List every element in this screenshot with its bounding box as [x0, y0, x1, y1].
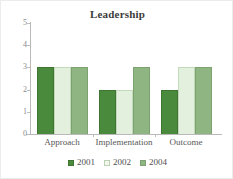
bar[interactable]	[116, 90, 133, 134]
y-axis-tick-mark	[27, 134, 30, 135]
y-axis-tick-mark	[27, 90, 30, 91]
bar-group	[155, 23, 217, 134]
bar[interactable]	[133, 67, 150, 134]
y-axis-tick-label: 2	[11, 86, 27, 94]
bar-group-bars	[31, 23, 93, 134]
y-axis-tick-labels: 012345	[9, 1, 27, 179]
bar[interactable]	[178, 67, 195, 134]
chart-title: Leadership	[1, 8, 233, 20]
chart-legend: 200120022004	[1, 158, 233, 167]
y-axis-tick-mark	[27, 67, 30, 68]
legend-label: 2001	[77, 158, 95, 167]
bar-chart-figure: Leadership 012345 ApproachImplementation…	[0, 0, 233, 179]
legend-item[interactable]: 2004	[140, 158, 167, 167]
x-axis-category-label: Outcome	[143, 137, 229, 147]
bar[interactable]	[195, 67, 212, 134]
bar[interactable]	[99, 90, 116, 134]
legend-color-swatch	[104, 160, 110, 166]
legend-label: 2002	[113, 158, 131, 167]
legend-item[interactable]: 2001	[68, 158, 95, 167]
bar[interactable]	[161, 90, 178, 134]
bar-group	[93, 23, 155, 134]
y-axis-tick-label: 4	[11, 41, 27, 49]
bar[interactable]	[54, 67, 71, 134]
legend-color-swatch	[68, 160, 74, 166]
x-axis-line	[26, 134, 222, 135]
x-axis-tick-mark	[93, 134, 94, 137]
y-axis-tick-mark	[27, 45, 30, 46]
bar[interactable]	[71, 67, 88, 134]
bar[interactable]	[37, 67, 54, 134]
y-axis-tick-label: 1	[11, 108, 27, 116]
y-axis-tick-label: 3	[11, 63, 27, 71]
legend-label: 2004	[149, 158, 167, 167]
legend-item[interactable]: 2002	[104, 158, 131, 167]
x-axis-tick-mark	[155, 134, 156, 137]
y-axis-tick-mark	[27, 23, 30, 24]
y-axis-tick-mark	[27, 112, 30, 113]
bar-group-bars	[155, 23, 217, 134]
y-axis-tick-label: 5	[11, 19, 27, 27]
bar-group-bars	[93, 23, 155, 134]
bar-group	[31, 23, 93, 134]
legend-color-swatch	[140, 160, 146, 166]
